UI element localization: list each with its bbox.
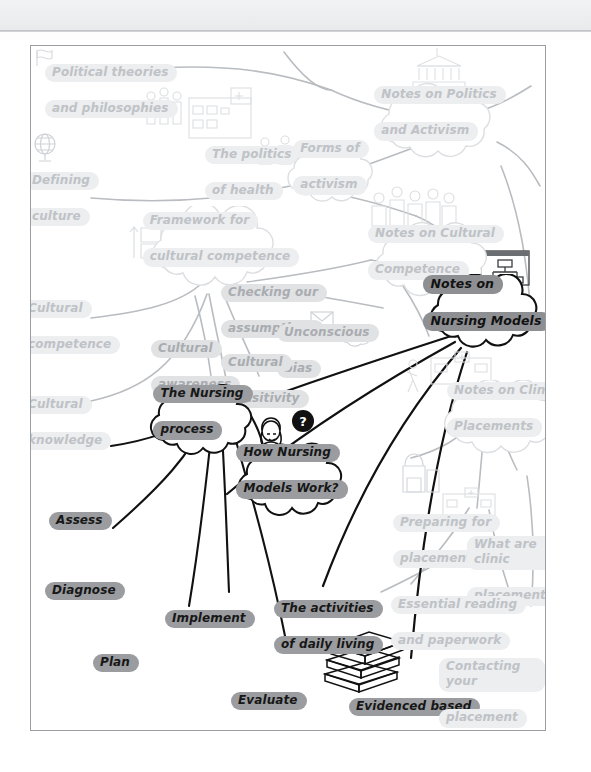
node-cultural-competence[interactable]: Cultural competence Cultural competence [30, 284, 120, 388]
node-label-line-1: Political theories [45, 64, 177, 83]
node-label-line-2: process [153, 421, 222, 440]
node-label: Assess [49, 512, 112, 531]
node-label-line-1: Cultural [30, 300, 92, 319]
node-label-line-1: How Nursing [236, 444, 340, 463]
node-label: Implement [165, 610, 255, 629]
node-plan[interactable]: Plan [93, 638, 139, 690]
node-label-line-2: Placements [447, 418, 542, 437]
node-label-line-1: Defining [30, 172, 99, 191]
node-label-line-2: activism [293, 176, 366, 195]
node-implement[interactable]: Implement [165, 594, 255, 646]
node-label-line-2: and Activism [374, 122, 478, 141]
node-how-nursing-models-work[interactable]: How Nursing Models Work? How Nursing Mod… [227, 442, 357, 518]
node-political-theories[interactable]: Political theories and philosophies Poli… [45, 48, 178, 152]
node-notes-on-clinical-placements[interactable]: Notes on Clinic Placements Notes on Clin… [431, 380, 546, 456]
node-label-line-2: and philosophies [45, 100, 178, 119]
node-label-line-2: culture [30, 208, 90, 227]
node-label-line-1: Cultural [30, 396, 92, 415]
node-diagnose[interactable]: Diagnose [45, 566, 125, 618]
node-label-line-1: Notes on Politics [374, 86, 506, 105]
node-assess[interactable]: Assess [49, 496, 112, 548]
node-label-line-1: What are clinic [467, 536, 546, 570]
mindmap-canvas[interactable]: ? [30, 45, 546, 731]
node-label: Evaluate [231, 692, 307, 711]
header-underlay [0, 32, 591, 40]
node-label-line-1: Notes on Clinic [447, 382, 546, 401]
node-label-line-1: Forms of [293, 140, 369, 159]
node-label-line-2: of daily living [274, 636, 383, 655]
node-label-line-1: Notes on Cultural [368, 225, 504, 244]
node-notes-on-politics-and-activism[interactable]: Notes on Politics and Activism Notes on … [367, 80, 513, 164]
node-label: Plan [93, 654, 139, 673]
node-label-line-1: Contacting your [439, 658, 545, 692]
app-header-bar [0, 0, 591, 30]
node-label-line-2: competence [30, 336, 120, 355]
node-label-line-2: Models Work? [236, 480, 347, 499]
node-label-line-2: Nursing Models [423, 312, 546, 331]
node-label-line-1: The activities [274, 600, 383, 619]
node-cultural-knowledge[interactable]: Cultural knowledge Cultural knowledge [30, 380, 111, 484]
node-label-line-1: The Nursing [153, 385, 252, 404]
node-label-line-2: placement [439, 709, 527, 728]
node-label-line-2: knowledge [30, 432, 111, 451]
node-notes-on-nursing-models[interactable]: Notes on Nursing Models Notes on Nursing… [417, 274, 546, 350]
node-label-line-1: Framework for [143, 212, 259, 231]
node-label-line-1: Cultural [151, 340, 222, 359]
node-label-line-1: Notes on [423, 275, 503, 294]
node-contacting-your-placement[interactable]: Contacting your placement Contacting you… [439, 642, 545, 731]
node-label-line-1: Essential reading [391, 596, 526, 615]
node-defining-culture[interactable]: Defining culture Defining culture [30, 156, 99, 260]
node-label-line-2: cultural competence [143, 248, 300, 267]
node-label-line-1: Checking our [221, 284, 327, 303]
node-label: Diagnose [45, 582, 125, 601]
node-activities-of-daily-living[interactable]: The activities of daily living The activ… [274, 584, 383, 688]
